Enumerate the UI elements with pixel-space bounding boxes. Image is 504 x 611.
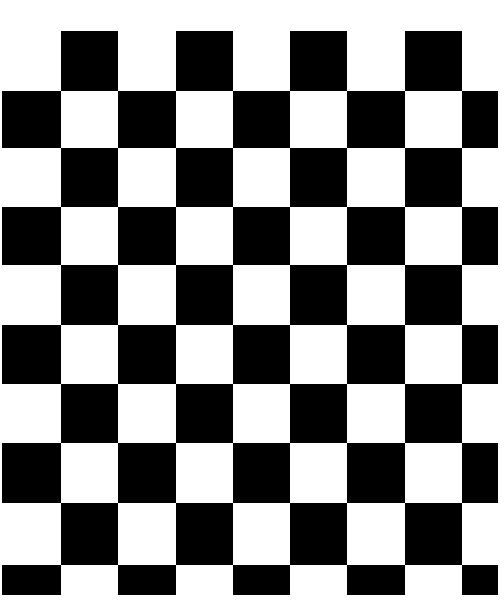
- white-square: [347, 265, 405, 325]
- white-square: [233, 384, 290, 443]
- black-square: [347, 443, 405, 503]
- white-square: [118, 31, 176, 91]
- white-square: [290, 207, 347, 265]
- black-square: [233, 207, 290, 265]
- white-square: [405, 207, 462, 265]
- black-square: [176, 503, 233, 565]
- white-square: [462, 31, 498, 91]
- white-square: [61, 565, 118, 595]
- white-square: [118, 148, 176, 207]
- white-square: [176, 207, 233, 265]
- white-square: [347, 148, 405, 207]
- white-square: [61, 443, 118, 503]
- black-square: [233, 325, 290, 384]
- white-square: [61, 207, 118, 265]
- black-square: [61, 148, 118, 207]
- black-square: [347, 325, 405, 384]
- white-square: [405, 565, 462, 595]
- black-square: [176, 265, 233, 325]
- white-square: [347, 503, 405, 565]
- white-square: [290, 325, 347, 384]
- black-square: [2, 207, 61, 265]
- black-square: [118, 443, 176, 503]
- white-square: [462, 384, 498, 443]
- black-square: [2, 325, 61, 384]
- black-square: [118, 91, 176, 148]
- black-square: [233, 565, 290, 595]
- black-square: [405, 384, 462, 443]
- white-square: [61, 91, 118, 148]
- black-square: [2, 91, 61, 148]
- white-square: [118, 503, 176, 565]
- white-square: [233, 148, 290, 207]
- black-square: [347, 565, 405, 595]
- black-square: [176, 148, 233, 207]
- black-square: [118, 565, 176, 595]
- white-square: [61, 325, 118, 384]
- white-square: [2, 31, 61, 91]
- white-square: [2, 265, 61, 325]
- white-square: [233, 503, 290, 565]
- black-square: [405, 148, 462, 207]
- white-square: [462, 265, 498, 325]
- black-square: [462, 443, 498, 503]
- white-square: [405, 443, 462, 503]
- white-square: [405, 325, 462, 384]
- white-square: [176, 565, 233, 595]
- white-square: [233, 31, 290, 91]
- white-square: [233, 265, 290, 325]
- white-square: [290, 565, 347, 595]
- white-square: [2, 503, 61, 565]
- black-square: [405, 503, 462, 565]
- black-square: [61, 31, 118, 91]
- white-square: [405, 91, 462, 148]
- black-square: [233, 443, 290, 503]
- white-square: [462, 503, 498, 565]
- black-square: [347, 91, 405, 148]
- black-square: [290, 384, 347, 443]
- black-square: [233, 91, 290, 148]
- white-square: [176, 91, 233, 148]
- black-square: [462, 325, 498, 384]
- checkerboard: [0, 0, 504, 611]
- black-square: [61, 384, 118, 443]
- white-square: [118, 265, 176, 325]
- black-square: [290, 148, 347, 207]
- black-square: [61, 265, 118, 325]
- black-square: [347, 207, 405, 265]
- white-square: [347, 31, 405, 91]
- white-square: [118, 384, 176, 443]
- white-square: [290, 91, 347, 148]
- black-square: [462, 565, 498, 595]
- black-square: [405, 31, 462, 91]
- white-square: [347, 384, 405, 443]
- white-square: [2, 384, 61, 443]
- black-square: [61, 503, 118, 565]
- black-square: [2, 443, 61, 503]
- black-square: [290, 31, 347, 91]
- white-square: [176, 325, 233, 384]
- white-square: [290, 443, 347, 503]
- white-square: [462, 148, 498, 207]
- black-square: [462, 207, 498, 265]
- black-square: [290, 503, 347, 565]
- white-square: [2, 148, 61, 207]
- black-square: [290, 265, 347, 325]
- black-square: [118, 207, 176, 265]
- black-square: [176, 384, 233, 443]
- black-square: [462, 91, 498, 148]
- black-square: [405, 265, 462, 325]
- black-square: [118, 325, 176, 384]
- black-square: [176, 31, 233, 91]
- black-square: [2, 565, 61, 595]
- white-square: [176, 443, 233, 503]
